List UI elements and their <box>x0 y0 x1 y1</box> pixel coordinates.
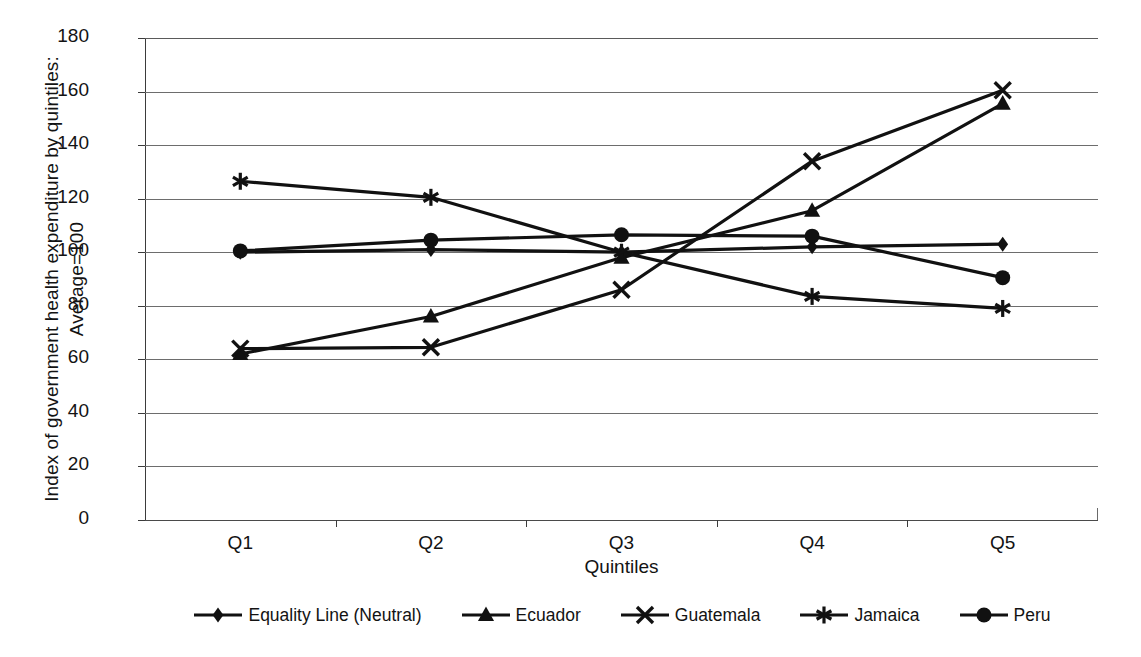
marker-circle <box>805 229 820 244</box>
marker-diamond <box>213 608 224 623</box>
marker-x <box>614 282 630 298</box>
x-tick-label-q4: Q4 <box>772 532 852 554</box>
y-tick-120 <box>138 199 145 200</box>
y-tick-label-40: 40 <box>29 400 89 422</box>
marker-circle <box>614 227 629 242</box>
x-tick-1 <box>336 520 337 527</box>
legend-label-jamaica: Jamaica <box>852 605 919 626</box>
x-tick-label-q2: Q2 <box>391 532 471 554</box>
y-tick-40 <box>138 413 145 414</box>
marker-circle <box>976 608 991 623</box>
series-guatemala <box>232 82 1010 356</box>
y-tick-label-20: 20 <box>29 453 89 475</box>
legend-marker-triangle-icon <box>460 605 512 625</box>
y-tick-label-100: 100 <box>29 239 89 261</box>
legend-label-guatemala: Guatemala <box>673 605 761 626</box>
marker-triangle <box>804 202 820 217</box>
y-tick-160 <box>138 92 145 93</box>
y-tick-label-80: 80 <box>29 293 89 315</box>
y-tick-80 <box>138 306 145 307</box>
y-tick-100 <box>138 252 145 253</box>
gridline-0 <box>145 520 1098 521</box>
y-tick-20 <box>138 466 145 467</box>
y-tick-140 <box>138 145 145 146</box>
x-tick-2 <box>526 520 527 527</box>
legend-marker-diamond-icon <box>192 605 244 625</box>
y-tick-label-160: 160 <box>29 79 89 101</box>
marker-circle <box>233 243 248 258</box>
y-tick-label-120: 120 <box>29 186 89 208</box>
y-tick-60 <box>138 359 145 360</box>
x-tick-4 <box>907 520 908 527</box>
x-axis-title: Quintiles <box>145 556 1098 578</box>
y-tick-label-180: 180 <box>29 25 89 47</box>
y-axis-title-line1: Index of government health expenditure b… <box>41 56 62 502</box>
legend-item-equality-line-neutral[interactable]: Equality Line (Neutral) <box>192 605 421 626</box>
marker-circle <box>423 233 438 248</box>
plot-area: 020406080100120140160180 Q1Q2Q3Q4Q5 <box>145 38 1098 520</box>
legend-item-jamaica[interactable]: Jamaica <box>798 605 919 626</box>
legend-label-ecuador: Ecuador <box>514 605 581 626</box>
y-tick-0 <box>138 520 145 521</box>
legend-item-ecuador[interactable]: Ecuador <box>460 605 581 626</box>
chart-figure: Index of government health expenditure b… <box>0 0 1141 657</box>
x-tick-label-q5: Q5 <box>963 532 1043 554</box>
legend-marker-asterisk-icon <box>798 605 850 625</box>
series-layer <box>145 38 1098 520</box>
chart-legend: Equality Line (Neutral)EcuadorGuatemalaJ… <box>145 598 1098 632</box>
marker-circle <box>995 270 1010 285</box>
marker-diamond <box>997 237 1008 252</box>
y-tick-180 <box>138 38 145 39</box>
legend-marker-circle-icon <box>958 605 1010 625</box>
y-tick-label-140: 140 <box>29 132 89 154</box>
legend-item-peru[interactable]: Peru <box>958 605 1051 626</box>
legend-marker-x-icon <box>619 605 671 625</box>
legend-label-peru: Peru <box>1012 605 1051 626</box>
y-tick-label-0: 0 <box>29 507 89 529</box>
legend-item-guatemala[interactable]: Guatemala <box>619 605 761 626</box>
x-tick-label-q3: Q3 <box>582 532 662 554</box>
y-tick-label-60: 60 <box>29 346 89 368</box>
legend-label-equality-line-neutral: Equality Line (Neutral) <box>246 605 421 626</box>
x-tick-3 <box>717 520 718 527</box>
x-tick-label-q1: Q1 <box>200 532 280 554</box>
marker-x <box>804 153 820 169</box>
